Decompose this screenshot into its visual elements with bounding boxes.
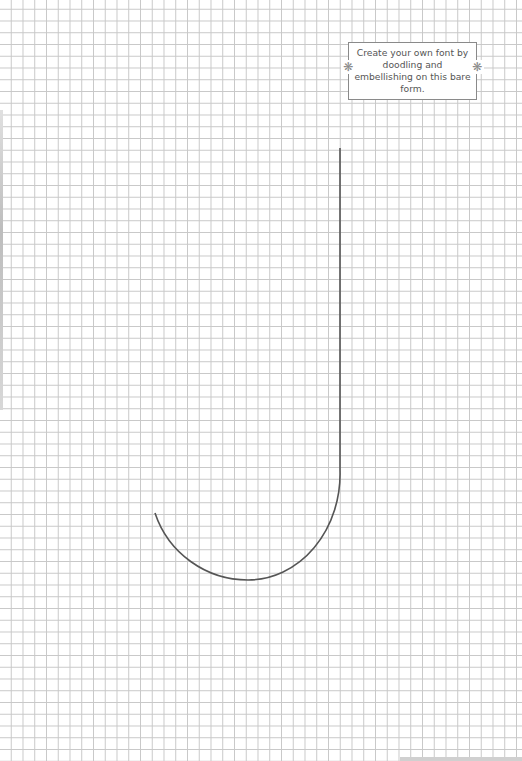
flower-icon: ❋ [341,60,355,74]
letter-j-outline [0,0,522,761]
letter-j-stroke [155,148,340,580]
instruction-box: Create your own font by doodling and emb… [348,42,477,100]
instruction-text: Create your own font by doodling and emb… [354,47,472,95]
flower-icon: ❋ [470,60,484,74]
